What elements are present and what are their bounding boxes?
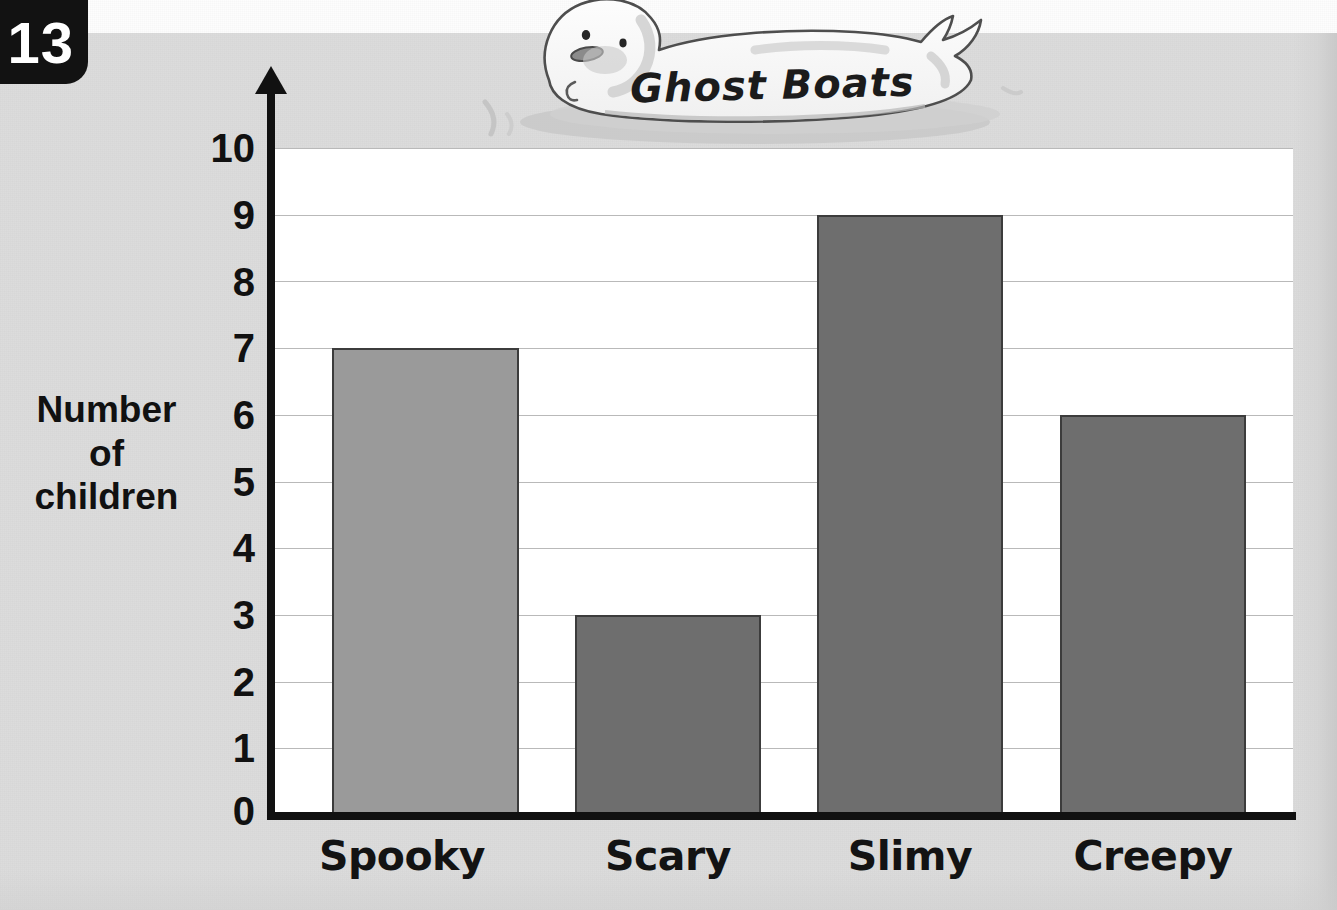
y-tick-7: 7 [195,326,255,371]
y-tick-3: 3 [195,593,255,638]
x-axis-line [267,812,1296,820]
bar-creepy [1060,415,1246,815]
y-axis-title: Number of children [4,388,209,519]
y-axis-title-line-2: of [4,432,209,476]
gridline-9 [274,215,1293,216]
y-axis-title-line-3: children [4,475,209,519]
y-tick-8: 8 [195,260,255,305]
page-number-text: 13 [7,9,74,76]
y-tick-4: 4 [195,526,255,571]
y-axis-title-line-1: Number [4,388,209,432]
y-tick-2: 2 [195,660,255,705]
plot-area [274,148,1293,815]
y-axis-line [267,88,275,818]
y-tick-9: 9 [195,193,255,238]
bar-slimy [817,215,1003,815]
bar-scary [575,615,761,815]
category-label-slimy: Slimy [790,832,1030,880]
category-label-spooky: Spooky [282,832,522,880]
gridline-8 [274,281,1293,282]
category-label-scary: Scary [548,832,788,880]
y-tick-10: 10 [195,126,255,171]
y-tick-0: 0 [195,789,255,834]
y-axis-arrow-icon [255,66,287,94]
worksheet-page: 13 [0,0,1337,910]
category-label-creepy: Creepy [1033,832,1273,880]
page-number-badge: 13 [0,0,88,84]
gridline-10 [274,148,1293,149]
y-tick-1: 1 [195,726,255,771]
bar-spooky [332,348,519,815]
